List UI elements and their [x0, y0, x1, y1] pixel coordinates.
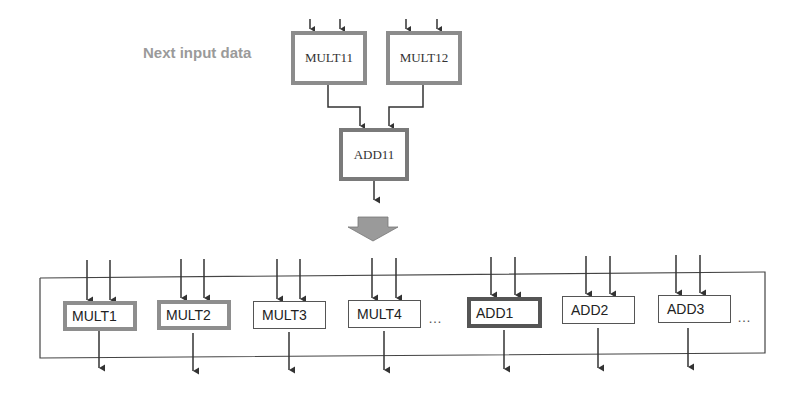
ellipsis-mult: …: [428, 310, 443, 326]
add3-unit: ADD3: [658, 295, 731, 323]
mult1-unit: MULT1: [63, 301, 137, 331]
add3-label: ADD3: [667, 301, 704, 317]
add1-label: ADD1: [476, 305, 513, 321]
mult4-label: MULT4: [357, 306, 402, 322]
mult12-to-add11: [389, 84, 423, 126]
add2-unit: ADD2: [562, 296, 635, 324]
add1-unit: ADD1: [467, 297, 542, 328]
mult12-label: MULT12: [400, 50, 449, 66]
block-arrow-down-icon: [348, 217, 398, 241]
ellipsis-add: …: [737, 309, 752, 325]
add11-label: ADD11: [354, 147, 395, 163]
mult11-box: MULT11: [291, 31, 367, 85]
mult1-label: MULT1: [72, 308, 117, 324]
mult3-unit: MULT3: [253, 301, 326, 329]
add2-label: ADD2: [571, 302, 608, 318]
mult11-to-add11: [328, 84, 360, 126]
mult4-unit: MULT4: [348, 300, 421, 328]
next-input-data-label: Next input data: [143, 44, 251, 61]
mult2-label: MULT2: [166, 307, 211, 323]
mult12-box: MULT12: [386, 31, 462, 85]
mult3-label: MULT3: [262, 307, 307, 323]
add11-box: ADD11: [339, 128, 409, 181]
mult2-unit: MULT2: [157, 300, 231, 330]
mult11-label: MULT11: [305, 50, 353, 66]
